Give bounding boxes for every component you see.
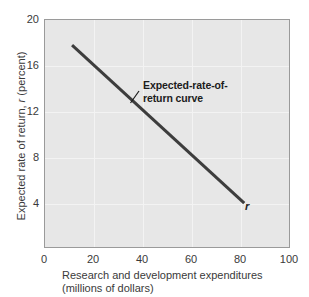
x-axis-title-line-1: Research and development expenditures xyxy=(62,269,302,282)
plot-area xyxy=(44,19,290,248)
figure: 20 16 12 8 4 0 20 40 60 80 100 Expected … xyxy=(0,0,309,297)
curve-symbol-label: r xyxy=(245,200,249,212)
x-tick-label-0: 0 xyxy=(24,253,64,265)
x-axis-title: Research and development expenditures (m… xyxy=(62,269,302,295)
x-axis-title-line-2: (millions of dollars) xyxy=(62,282,302,295)
x-tick-label-20: 20 xyxy=(73,253,113,265)
x-tick-label-80: 80 xyxy=(220,253,260,265)
curve-line xyxy=(72,45,244,203)
y-axis-title-symbol: r xyxy=(15,99,27,103)
curve-annotation-line-1: Expected-rate-of- xyxy=(143,79,238,92)
curve-annotation-label: Expected-rate-of- return curve xyxy=(143,79,238,105)
curve-annotation-line-2: return curve xyxy=(143,92,238,105)
x-tick-label-40: 40 xyxy=(122,253,162,265)
annotation-leader-slash xyxy=(130,90,141,104)
expected-rate-of-return-curve xyxy=(45,20,290,248)
x-tick-label-60: 60 xyxy=(171,253,211,265)
y-axis-title: Expected rate of return, r (percent) xyxy=(15,21,27,251)
x-tick-label-100: 100 xyxy=(269,253,309,265)
